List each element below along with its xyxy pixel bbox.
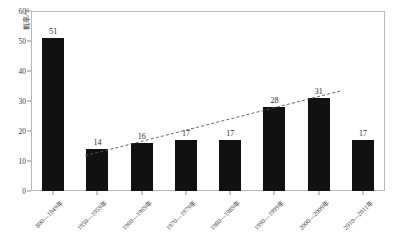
bars-layer: 5114161717283117 (31, 11, 385, 191)
bar-value-label: 14 (93, 138, 101, 147)
bar-group: 31 (297, 11, 341, 191)
bar-value-label: 28 (270, 96, 278, 105)
y-axis-tick-label: 50 (0, 37, 26, 46)
bar-value-label: 31 (315, 87, 323, 96)
bar (131, 143, 153, 191)
y-axis-tick-label: 10 (0, 157, 26, 166)
bar (42, 38, 64, 191)
bar-group: 17 (341, 11, 385, 191)
bar-value-label: 17 (359, 129, 367, 138)
x-axis-tick-label: 1970—1979年 (163, 197, 198, 232)
x-axis-tick-label: 1960—1969年 (119, 197, 154, 232)
bar (86, 149, 108, 191)
y-axis-tick-label: 60 (0, 7, 26, 16)
x-axis-tick-label: 1990—1999年 (251, 197, 286, 232)
x-axis-tick-label: 1950—1959年 (74, 197, 109, 232)
x-axis-tick-label: 1980—1989年 (207, 197, 242, 232)
bar-group: 17 (164, 11, 208, 191)
bar-value-label: 17 (182, 129, 190, 138)
y-axis-tick-label: 20 (0, 127, 26, 136)
bar-group: 14 (75, 11, 119, 191)
y-axis-tick-label: 0 (0, 187, 26, 196)
y-axis-tick-label: 30 (0, 97, 26, 106)
x-axis-tick-label: 2010—2011年 (340, 197, 375, 232)
bar-group: 16 (120, 11, 164, 191)
bar (308, 98, 330, 191)
bar-value-label: 17 (226, 129, 234, 138)
bar-group: 51 (31, 11, 75, 191)
x-axis-tick-label: 800—1949年 (32, 197, 65, 230)
bar (175, 140, 197, 191)
bar-value-label: 51 (49, 27, 57, 36)
bar-chart: 概率/% 0102030405060 5114161717283117 800—… (0, 0, 393, 252)
y-axis-tick-label: 40 (0, 67, 26, 76)
bar-group: 17 (208, 11, 252, 191)
bar (352, 140, 374, 191)
bar (263, 107, 285, 191)
x-axis-labels: 800—1949年1950—1959年1960—1969年1970—1979年1… (31, 191, 385, 252)
bar (219, 140, 241, 191)
bar-group: 28 (252, 11, 296, 191)
x-axis-tick-label: 2000—2009年 (296, 197, 331, 232)
bar-value-label: 16 (138, 132, 146, 141)
